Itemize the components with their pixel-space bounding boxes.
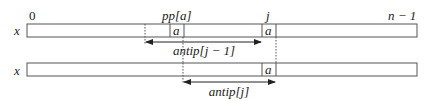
pp-a-label: pp[a] <box>161 8 192 23</box>
array-row2 <box>27 63 417 76</box>
array-row1 <box>27 24 417 37</box>
span-label-row1: antip[j − 1] <box>173 43 235 58</box>
j-label: j <box>264 8 270 23</box>
cell-a-j-row2: a <box>265 62 272 77</box>
array-diagram: 0 pp[a] j n − 1 x a a antip[j − 1] x a a… <box>0 0 437 101</box>
array-x-label-row2: x <box>13 63 20 78</box>
cell-a-pp: a <box>173 23 180 38</box>
start-index-label: 0 <box>29 8 36 23</box>
end-index-label: n − 1 <box>388 8 416 23</box>
array-x-label-row1: x <box>13 23 20 38</box>
span-label-row2: antip[j] <box>209 84 249 99</box>
cell-a-j-row1: a <box>265 23 272 38</box>
